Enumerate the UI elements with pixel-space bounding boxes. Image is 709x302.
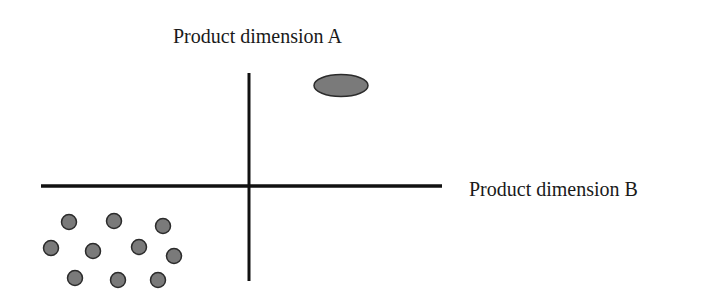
circle-marker	[44, 241, 59, 256]
circle-marker	[68, 271, 83, 286]
circle-marker	[167, 249, 182, 264]
perceptual-map-canvas	[0, 0, 709, 302]
ellipse-marker-upper-right	[314, 75, 368, 97]
circle-marker	[156, 219, 171, 234]
circle-marker	[151, 273, 166, 288]
circle-marker	[107, 214, 122, 229]
circle-marker	[62, 215, 77, 230]
circle-marker	[111, 273, 126, 288]
circle-marker	[132, 240, 147, 255]
circle-marker	[86, 244, 101, 259]
perceptual-map-diagram: Product dimension A Product dimension B	[0, 0, 709, 302]
circle-marker-cluster-lower-left	[44, 214, 182, 288]
